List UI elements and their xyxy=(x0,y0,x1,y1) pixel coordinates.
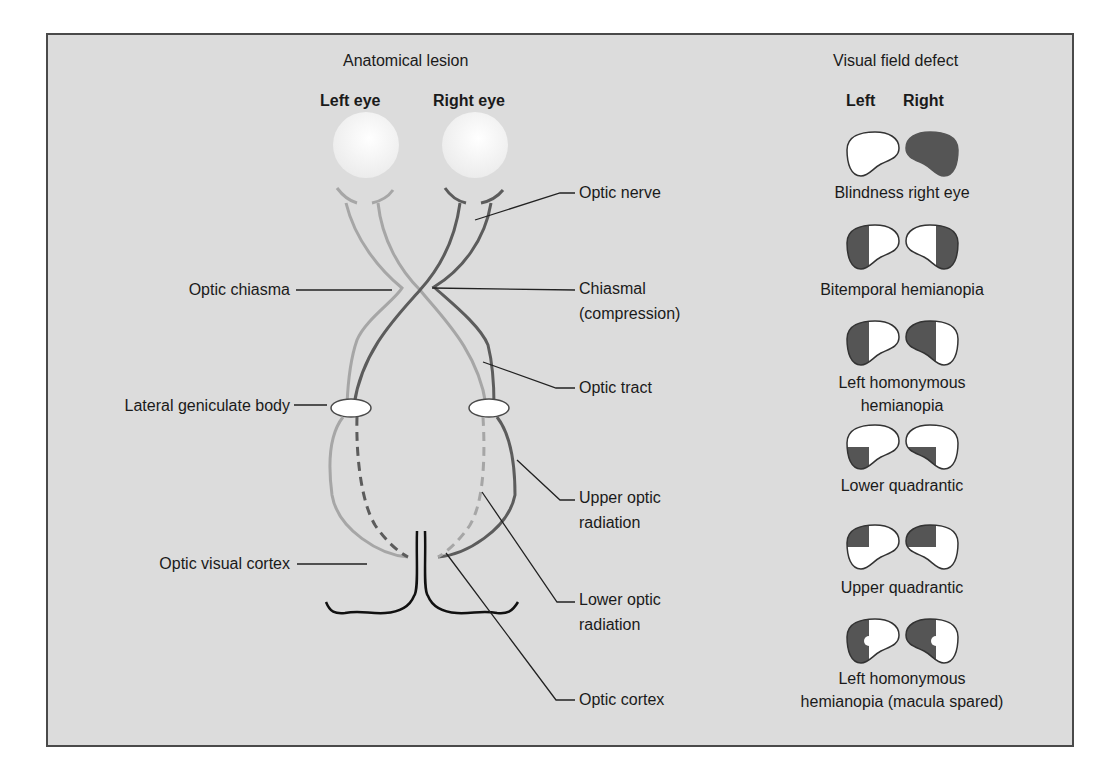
label-optic-tract: Optic tract xyxy=(579,378,652,397)
right-eye-label: Right eye xyxy=(433,91,505,110)
vf-row6-label-line2: hemianopia (macula spared) xyxy=(782,692,1022,711)
label-optic-cortex: Optic cortex xyxy=(579,690,664,709)
left-eye-label: Left eye xyxy=(320,91,380,110)
vf-row5-label: Upper quadrantic xyxy=(782,578,1022,597)
vf-row4-left-field xyxy=(839,425,899,477)
anatomy-heading: Anatomical lesion xyxy=(343,51,468,70)
label-chiasmal-line1: Chiasmal xyxy=(579,279,646,298)
vf-row3-label-line1: Left homonymous xyxy=(782,373,1022,392)
vf-row3-label-line2: hemianopia xyxy=(782,396,1022,415)
vf-row2-label: Bitemporal hemianopia xyxy=(782,280,1022,299)
left-lateral-geniculate-body xyxy=(331,399,371,417)
vf-row1-label: Blindness right eye xyxy=(782,183,1022,202)
vf-col-left: Left xyxy=(846,91,875,110)
label-upper-radiation-line2: radiation xyxy=(579,513,640,532)
vf-row6-label-line1: Left homonymous xyxy=(782,669,1022,688)
vf-row1-left-field xyxy=(847,132,899,176)
vf-row4-right-field xyxy=(906,425,958,477)
left-eyeball-icon xyxy=(333,112,399,178)
label-optic-visual-cortex: Optic visual cortex xyxy=(90,554,290,573)
vf-row6-left-field xyxy=(839,611,899,671)
vf-row2-right-field xyxy=(906,217,966,277)
label-upper-radiation-line1: Upper optic xyxy=(579,488,661,507)
visual-cortex-outline xyxy=(326,531,518,613)
label-lower-radiation-line2: radiation xyxy=(579,615,640,634)
vf-col-right: Right xyxy=(903,91,944,110)
vf-row4-label: Lower quadrantic xyxy=(782,476,1022,495)
label-optic-nerve: Optic nerve xyxy=(579,183,661,202)
vf-row6-right-field xyxy=(906,611,958,671)
label-optic-chiasma: Optic chiasma xyxy=(90,280,290,299)
right-eye-nerve-fibers xyxy=(354,203,494,405)
vf-row1-right-field xyxy=(906,132,958,176)
vf-row3-left-field xyxy=(839,313,899,373)
vf-row5-left-field xyxy=(839,517,899,569)
right-eyeball-icon xyxy=(442,112,508,178)
right-lateral-geniculate-body xyxy=(469,399,509,417)
label-lower-radiation-line1: Lower optic xyxy=(579,590,661,609)
visual-field-heading: Visual field defect xyxy=(833,51,958,70)
vf-row3-right-field xyxy=(906,313,958,373)
optic-radiations xyxy=(330,417,515,557)
left-eye-nerve-fibers xyxy=(346,203,486,405)
vf-row5-right-field xyxy=(906,517,958,569)
label-lateral-geniculate-body: Lateral geniculate body xyxy=(40,396,290,415)
label-chiasmal-line2: (compression) xyxy=(579,304,680,323)
vf-row2-left-field xyxy=(839,217,899,277)
